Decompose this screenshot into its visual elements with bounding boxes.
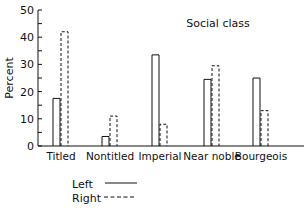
legend-right-label: Right: [72, 192, 102, 205]
y-axis-label: Percent: [3, 57, 16, 99]
x-tick-label: Near noble: [183, 150, 241, 162]
left-bar: [253, 78, 260, 146]
y-tick-label: 10: [20, 113, 34, 126]
right-bar: [110, 116, 117, 146]
chart-title: Social class: [186, 17, 250, 30]
y-tick-label: 20: [20, 86, 34, 99]
left-bar: [204, 79, 211, 146]
bar-chart: 01020304050 TitledNontitledImperialNear …: [0, 0, 304, 211]
legend-left-label: Left: [72, 178, 93, 191]
bars: [53, 32, 268, 146]
right-bar: [160, 124, 167, 146]
left-bar: [102, 136, 109, 146]
x-tick-label: Titled: [45, 150, 75, 162]
left-bar: [53, 98, 60, 146]
y-tick-label: 30: [20, 58, 34, 71]
right-bar: [61, 32, 68, 146]
x-tick-label: Bourgeois: [235, 150, 287, 162]
right-bar: [261, 111, 268, 146]
y-tick-label: 50: [20, 4, 34, 17]
y-tick-label: 40: [20, 31, 34, 44]
category-labels: TitledNontitledImperialNear nobleBourgeo…: [45, 150, 287, 162]
x-tick-label: Imperial: [138, 150, 181, 162]
legend: Left Right: [72, 178, 137, 205]
x-tick-label: Nontitled: [86, 150, 134, 162]
left-bar: [152, 55, 159, 146]
right-bar: [212, 66, 219, 146]
y-tick-label: 0: [27, 140, 34, 153]
